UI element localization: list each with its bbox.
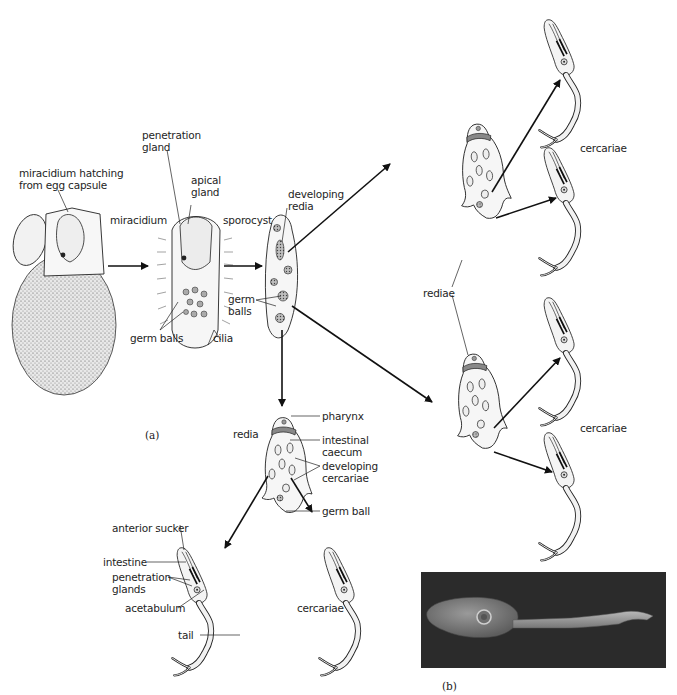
panel-label-a: (a) [145,429,159,441]
label-sporocyst: sporocyst [223,214,272,226]
label-developing-redia: developing redia [288,188,344,212]
label-cercariae-top: cercariae [580,142,627,154]
egg-capsule-drawing [8,208,116,395]
label-pharynx: pharynx [322,410,364,422]
label-germ-balls-sporocyst: germ balls [228,293,255,317]
label-miracidium: miracidium [110,214,167,226]
cercaria-top-2 [539,148,578,276]
sporocyst-drawing [265,215,297,338]
label-penetration-gland: penetration gland [142,129,201,153]
label-redia: redia [233,428,259,440]
cercaria-mid-2 [539,433,578,561]
redia-bottom-right [452,352,508,450]
label-tail: tail [178,629,194,641]
label-rediae: rediae [423,287,455,299]
miracidium-drawing [157,217,233,349]
cercaria-mid-1 [539,298,578,426]
label-cercariae-mid: cercariae [580,422,627,434]
label-germ-balls-miracidium: germ balls [130,332,183,344]
label-apical-gland: apical gland [191,174,221,198]
label-intestinal-caecum: intestinal caecum [322,434,369,458]
label-intestine: intestine [103,556,147,568]
label-penetration-glands: penetration glands [112,571,171,595]
label-acetabulum: acetabulum [125,602,185,614]
label-cilia: cilia [213,332,233,344]
life-cycle-diagram: miracidium hatching from egg capsule pen… [0,0,677,695]
label-germ-ball: germ ball [322,505,370,517]
label-egg-hatching: miracidium hatching from egg capsule [19,167,123,191]
sem-photo-cercaria [421,572,666,668]
label-anterior-sucker: anterior sucker [112,522,188,534]
panel-label-b: (b) [442,680,457,692]
cercaria-photo-icon [421,572,666,668]
redia-drawing [262,418,312,513]
label-cercariae-bottom: cercariae [297,602,344,614]
label-developing-cercariae: developing cercariae [322,460,378,484]
